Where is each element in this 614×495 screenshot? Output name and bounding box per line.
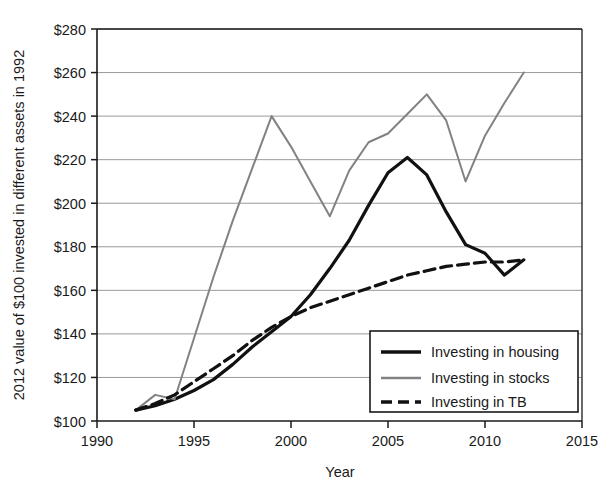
y-tick-label: $220: [54, 152, 86, 168]
y-axis-title-text: 2012 value of $100 invested in different…: [11, 50, 27, 400]
x-axis-title: Year: [325, 464, 354, 480]
y-axis-ticks: $100$120$140$160$180$200$220$240$260$280: [54, 22, 97, 430]
y-tick-label: $180: [54, 239, 86, 255]
legend-label-housing: Investing in housing: [431, 344, 559, 360]
gridlines: [97, 29, 582, 377]
y-tick-label: $120: [54, 370, 86, 386]
x-tick-label: 1995: [178, 433, 210, 449]
line-chart: 2012 value of $100 invested in different…: [0, 0, 614, 495]
x-tick-label: 2000: [275, 433, 307, 449]
chart-container: 2012 value of $100 invested in different…: [0, 0, 614, 495]
y-tick-label: $160: [54, 283, 86, 299]
legend-label-tb: Investing in TB: [431, 394, 527, 410]
legend: Investing in housing Investing in stocks…: [370, 331, 578, 412]
y-tick-label: $200: [54, 196, 86, 212]
y-tick-label: $280: [54, 22, 86, 38]
legend-label-stocks: Investing in stocks: [431, 370, 549, 386]
x-tick-label: 2005: [372, 433, 404, 449]
y-axis-title: 2012 value of $100 invested in different…: [11, 50, 27, 400]
y-tick-label: $140: [54, 326, 86, 342]
x-tick-label: 2015: [566, 433, 598, 449]
y-tick-label: $100: [54, 414, 86, 430]
y-tick-label: $240: [54, 109, 86, 125]
x-tick-label: 1990: [81, 433, 113, 449]
y-tick-label: $260: [54, 65, 86, 81]
x-axis-ticks: 199019952000200520102015: [81, 421, 598, 449]
x-tick-label: 2010: [469, 433, 501, 449]
